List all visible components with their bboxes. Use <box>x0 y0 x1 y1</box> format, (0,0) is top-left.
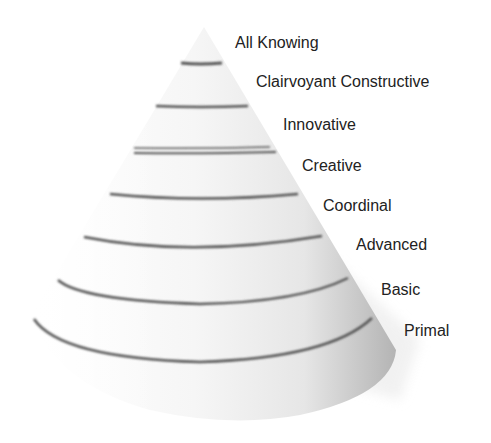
level-label-clairvoyant-constructive: Clairvoyant Constructive <box>256 73 429 91</box>
level-label-advanced: Advanced <box>356 236 427 254</box>
level-label-coordinal: Coordinal <box>323 197 391 215</box>
level-label-innovative: Innovative <box>283 116 356 134</box>
ring-1 <box>181 63 222 64</box>
level-label-basic: Basic <box>381 281 420 299</box>
level-label-all-knowing: All Knowing <box>235 34 319 52</box>
ring-2 <box>156 106 248 107</box>
cone-diagram <box>0 0 491 443</box>
level-label-creative: Creative <box>302 157 362 175</box>
level-label-primal: Primal <box>404 322 449 340</box>
